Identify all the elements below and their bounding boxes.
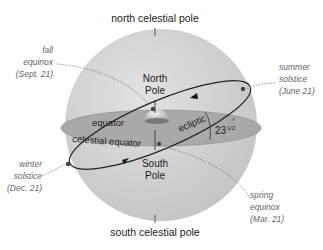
south-celestial-pole-label: south celestial pole — [110, 226, 199, 238]
winter-solstice-label-3: (Dec. 21) — [7, 183, 42, 193]
fall-equinox-label-2: equinox — [23, 57, 54, 67]
spring-equinox-label-2: equinox — [250, 202, 281, 212]
tilt-degree: ° — [232, 118, 235, 125]
celestial-sphere-diagram: north celestial pole south celestial pol… — [0, 0, 323, 250]
summer-solstice-point — [241, 87, 245, 91]
tilt-angle-label: 23 — [215, 125, 227, 136]
fall-equinox-point — [151, 107, 155, 111]
spring-equinox-point — [157, 142, 161, 146]
south-pole-label-line2: Pole — [145, 170, 165, 181]
winter-solstice-label-2: solstice — [14, 171, 43, 181]
north-pole-label-line2: Pole — [145, 85, 165, 96]
equator-label: equator — [92, 117, 124, 128]
spring-equinox-label-3: (Mar. 21) — [250, 214, 284, 224]
winter-solstice-label-1: winter — [19, 159, 43, 169]
north-celestial-pole-label: north celestial pole — [111, 12, 199, 24]
summer-solstice-label-2: solstice — [279, 74, 308, 84]
summer-solstice-label-3: (June 21) — [279, 86, 315, 96]
fall-equinox-label-3: (Sept. 21) — [16, 69, 53, 79]
south-pole-label-line1: South — [142, 158, 168, 169]
north-pole-label-line1: North — [143, 73, 167, 84]
summer-solstice-label-1: summer — [279, 62, 311, 72]
winter-solstice-point — [66, 162, 70, 166]
fall-equinox-label-1: fall — [42, 45, 54, 55]
tilt-fraction: 1/2 — [227, 125, 236, 131]
spring-equinox-label-1: spring — [250, 190, 273, 200]
